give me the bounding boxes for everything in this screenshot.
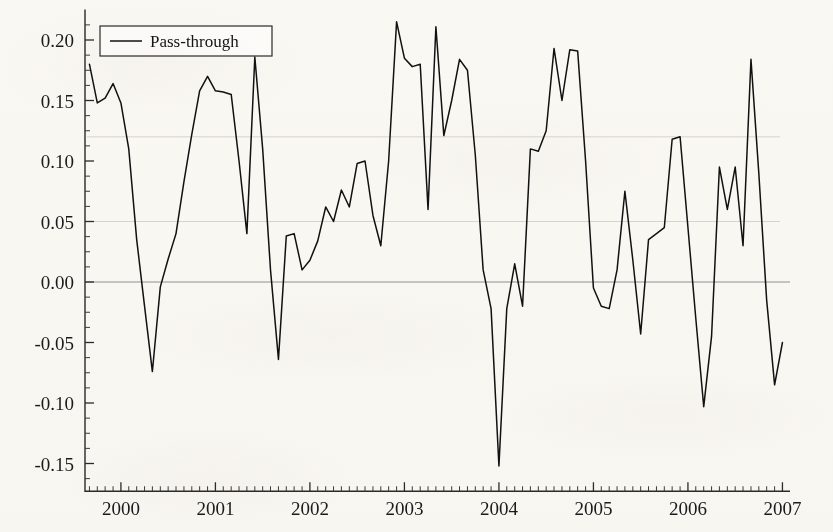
legend-label: Pass-through [150, 32, 239, 51]
x-tick-label: 2007 [763, 498, 801, 519]
y-axis-ticks [85, 25, 94, 479]
x-tick-label: 2002 [291, 498, 329, 519]
x-tick-label: 2005 [574, 498, 612, 519]
y-tick-label: 0.20 [41, 30, 74, 51]
x-tick-label: 2001 [196, 498, 234, 519]
chart-legend: Pass-through [100, 26, 272, 56]
pass-through-line-chart: 20002001200220032004200520062007 0.200.1… [0, 0, 833, 532]
x-axis-ticks [89, 482, 782, 491]
x-tick-label: 2003 [385, 498, 423, 519]
figure-page: 20002001200220032004200520062007 0.200.1… [0, 0, 833, 532]
y-tick-label: 0.05 [41, 212, 74, 233]
y-tick-label: -0.15 [34, 454, 74, 475]
x-axis-tick-labels: 20002001200220032004200520062007 [102, 498, 802, 519]
series-pass-through [89, 22, 782, 466]
y-tick-label: 0.15 [41, 91, 74, 112]
y-tick-label: -0.10 [34, 393, 74, 414]
series-path-pass-through [89, 22, 782, 466]
x-tick-label: 2004 [480, 498, 519, 519]
faint-gridlines [87, 137, 780, 222]
y-tick-label: 0.10 [41, 151, 74, 172]
y-tick-label: -0.05 [34, 333, 74, 354]
y-axis-tick-labels: 0.200.150.100.050.00-0.05-0.10-0.15 [34, 30, 74, 475]
axes [85, 9, 790, 491]
x-tick-label: 2000 [102, 498, 140, 519]
y-tick-label: 0.00 [41, 272, 74, 293]
x-tick-label: 2006 [669, 498, 707, 519]
